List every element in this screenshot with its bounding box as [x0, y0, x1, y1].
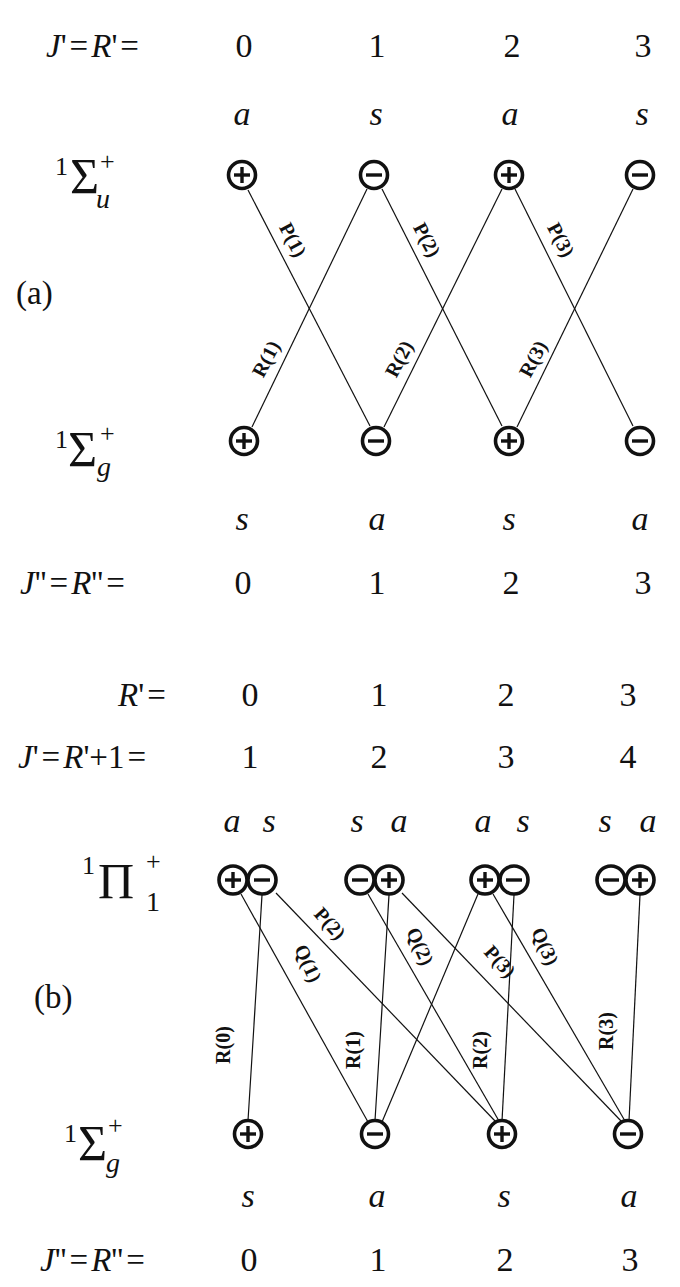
transition-label-r1: R(1) [342, 1031, 365, 1069]
svg-text:Σ: Σ [68, 421, 97, 477]
minus-parity-icon [248, 866, 276, 894]
panel-label-a: (a) [16, 275, 53, 312]
svg-text:Π: Π [98, 853, 134, 909]
plus-parity-icon [471, 866, 499, 894]
plus-parity-icon [219, 866, 247, 894]
lower-symmetry: s [235, 500, 248, 537]
plus-parity-icon [496, 428, 523, 455]
lower-j-label: J''=R''= [20, 565, 125, 601]
transition-label-r3: R(3) [595, 1012, 618, 1050]
upper-symmetry: s [350, 802, 363, 839]
transition-label-p3: P(3) [479, 941, 520, 983]
minus-parity-icon [597, 866, 625, 894]
upper-r-value: 2 [498, 676, 515, 713]
plus-parity-icon [375, 866, 403, 894]
lower-j-value: 0 [235, 564, 252, 601]
plus-parity-icon [229, 162, 256, 189]
transition-label-r3: R(3) [514, 337, 552, 381]
upper-symmetry: a [224, 802, 241, 839]
transition-label-r2: R(2) [380, 337, 418, 381]
transition-label-p2: P(2) [309, 903, 350, 945]
minus-parity-icon [615, 1121, 642, 1148]
parity-pair-3 [597, 866, 654, 894]
svg-text:1: 1 [55, 425, 68, 454]
svg-text:g: g [97, 451, 111, 482]
transition-lines-b [241, 893, 640, 1122]
upper-symmetry: s [369, 95, 382, 132]
panel-b: R'= 0 1 2 3 J'=R'+1= 1 2 3 4 a s s a a s… [18, 676, 657, 1278]
transition-label-r1: R(1) [247, 337, 285, 381]
upper-j-value: 2 [371, 738, 388, 775]
state-label-sigma-g: 1 Σ + g [55, 419, 115, 482]
upper-symmetry: a [475, 802, 492, 839]
upper-r-value: 0 [242, 676, 259, 713]
minus-parity-icon [363, 428, 390, 455]
svg-text:1: 1 [55, 152, 68, 181]
lower-j-value: 1 [369, 564, 386, 601]
upper-symmetry: a [234, 95, 251, 132]
lower-j-value: 2 [497, 1241, 514, 1278]
minus-parity-icon [627, 162, 654, 189]
plus-parity-icon [235, 1121, 262, 1148]
lower-j-value: 3 [635, 564, 652, 601]
plus-parity-icon [489, 1121, 516, 1148]
lower-j-value: 3 [622, 1241, 639, 1278]
upper-j-label: J'=R'+1= [18, 739, 146, 775]
upper-symmetry: a [640, 802, 657, 839]
upper-r-label: R'= [117, 677, 166, 713]
upper-symmetry: s [598, 802, 611, 839]
upper-symmetry: a [391, 802, 408, 839]
minus-parity-icon [361, 162, 388, 189]
transition-label-p1: P(1) [274, 219, 311, 261]
plus-parity-icon [496, 162, 523, 189]
upper-j-value: 4 [620, 738, 637, 775]
plus-parity-icon [231, 428, 258, 455]
svg-text:u: u [96, 183, 110, 214]
svg-text:g: g [106, 1147, 120, 1178]
transition-label-q1: Q(1) [290, 941, 327, 986]
svg-text:+: + [146, 847, 161, 876]
lower-j-value: 0 [241, 1241, 258, 1278]
lower-symmetry: s [241, 1177, 254, 1214]
plus-parity-icon [626, 866, 654, 894]
svg-text:+: + [108, 1111, 123, 1140]
parity-pair-0 [219, 866, 276, 894]
upper-symmetry: s [635, 95, 648, 132]
upper-j-value: 0 [236, 27, 253, 64]
parity-pair-1 [346, 866, 403, 894]
energy-level-diagram: J'=R'= 0 1 2 3 a s a s 1 Σ + u P(1) P(2)… [0, 0, 680, 1287]
transition-lines-a [248, 189, 633, 427]
parity-pair-2 [471, 866, 528, 894]
svg-text:Σ: Σ [70, 148, 99, 204]
lower-j-value: 1 [370, 1241, 387, 1278]
upper-j-value: 2 [504, 27, 521, 64]
minus-parity-icon [500, 866, 528, 894]
lower-symmetry: s [497, 1177, 510, 1214]
lower-symmetry: a [632, 500, 649, 537]
svg-text:+: + [100, 147, 115, 176]
minus-parity-icon [627, 428, 654, 455]
upper-r-value: 3 [620, 676, 637, 713]
lower-j-label: J''=R''= [40, 1242, 145, 1278]
upper-j-value: 3 [635, 27, 652, 64]
transition-label-r0: R(0) [212, 1026, 235, 1064]
panel-a: J'=R'= 0 1 2 3 a s a s 1 Σ + u P(1) P(2)… [16, 27, 654, 601]
transition-label-p2: P(2) [408, 219, 445, 261]
transition-label-r2: R(2) [469, 1031, 492, 1069]
svg-text:1: 1 [82, 851, 95, 880]
lower-symmetry: a [621, 1177, 638, 1214]
svg-text:Σ: Σ [78, 1115, 107, 1171]
lower-symmetry: s [502, 500, 515, 537]
lower-j-value: 2 [503, 564, 520, 601]
state-label-sigma-u: 1 Σ + u [55, 147, 115, 214]
panel-label-b: (b) [34, 979, 72, 1016]
upper-symmetry: s [516, 802, 529, 839]
upper-symmetry: s [262, 802, 275, 839]
upper-j-value: 1 [242, 738, 259, 775]
lower-symmetry: a [369, 500, 386, 537]
upper-j-label: J'=R'= [46, 28, 139, 64]
upper-symmetry: a [502, 95, 519, 132]
state-label-sigma-g-b: 1 Σ + g [64, 1111, 123, 1178]
minus-parity-icon [346, 866, 374, 894]
upper-j-value: 3 [498, 738, 515, 775]
